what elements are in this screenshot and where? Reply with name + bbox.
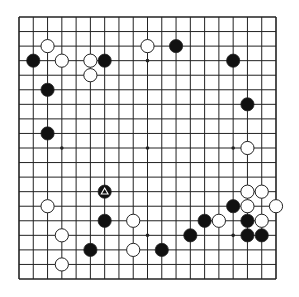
black-stone-disc xyxy=(98,54,111,67)
black-stone-disc xyxy=(255,229,268,242)
white-stone-disc xyxy=(127,214,140,227)
white-stone[interactable] xyxy=(241,200,254,213)
star-point xyxy=(146,59,150,63)
white-stone[interactable] xyxy=(127,243,140,256)
black-stone[interactable] xyxy=(241,229,254,242)
black-stone[interactable] xyxy=(27,54,40,67)
black-stone-disc xyxy=(169,40,182,53)
white-stone-disc xyxy=(241,200,254,213)
black-stone-disc xyxy=(155,243,168,256)
go-board[interactable] xyxy=(0,0,299,297)
black-stone[interactable] xyxy=(98,54,111,67)
white-stone[interactable] xyxy=(55,229,68,242)
white-stone-disc xyxy=(84,69,97,82)
black-stone-disc xyxy=(227,54,240,67)
black-stone-disc xyxy=(241,214,254,227)
black-stone[interactable] xyxy=(198,214,211,227)
star-point xyxy=(231,234,235,238)
white-stone-disc xyxy=(84,54,97,67)
white-stone[interactable] xyxy=(84,69,97,82)
black-stone[interactable] xyxy=(98,214,111,227)
white-stone-disc xyxy=(41,200,54,213)
star-point xyxy=(231,146,235,150)
white-stone[interactable] xyxy=(84,54,97,67)
white-stone[interactable] xyxy=(241,185,254,198)
black-stone[interactable] xyxy=(155,243,168,256)
black-stone-disc xyxy=(198,214,211,227)
black-stone[interactable] xyxy=(98,185,111,198)
white-stone[interactable] xyxy=(41,40,54,53)
black-stone[interactable] xyxy=(184,229,197,242)
white-stone-disc xyxy=(241,185,254,198)
black-stone-disc xyxy=(241,229,254,242)
black-stone-disc xyxy=(227,200,240,213)
star-point xyxy=(146,234,150,238)
white-stone[interactable] xyxy=(255,185,268,198)
white-stone-disc xyxy=(141,40,154,53)
white-stone-disc xyxy=(212,214,225,227)
black-stone[interactable] xyxy=(227,200,240,213)
black-stone[interactable] xyxy=(241,214,254,227)
white-stone-disc xyxy=(41,40,54,53)
black-stone[interactable] xyxy=(84,243,97,256)
black-stone-disc xyxy=(98,214,111,227)
black-stone[interactable] xyxy=(255,229,268,242)
white-stone[interactable] xyxy=(41,200,54,213)
white-stone-disc xyxy=(55,258,68,271)
black-stone[interactable] xyxy=(41,83,54,96)
white-stone-disc xyxy=(255,214,268,227)
black-stone[interactable] xyxy=(41,127,54,140)
white-stone-disc xyxy=(127,243,140,256)
white-stone-disc xyxy=(255,185,268,198)
white-stone[interactable] xyxy=(212,214,225,227)
white-stone[interactable] xyxy=(55,54,68,67)
star-point xyxy=(60,146,64,150)
white-stone[interactable] xyxy=(269,200,282,213)
white-stone[interactable] xyxy=(241,141,254,154)
black-stone[interactable] xyxy=(241,98,254,111)
black-stone-disc xyxy=(41,127,54,140)
white-stone-disc xyxy=(269,200,282,213)
white-stone-disc xyxy=(55,229,68,242)
black-stone-disc xyxy=(41,83,54,96)
black-stone[interactable] xyxy=(169,40,182,53)
black-stone-disc xyxy=(27,54,40,67)
black-stone-disc xyxy=(241,98,254,111)
star-point xyxy=(146,146,150,150)
white-stone[interactable] xyxy=(127,214,140,227)
white-stone-disc xyxy=(241,141,254,154)
white-stone[interactable] xyxy=(141,40,154,53)
white-stone-disc xyxy=(55,54,68,67)
black-stone[interactable] xyxy=(227,54,240,67)
white-stone[interactable] xyxy=(55,258,68,271)
black-stone-disc xyxy=(184,229,197,242)
black-stone-disc xyxy=(84,243,97,256)
white-stone[interactable] xyxy=(255,214,268,227)
